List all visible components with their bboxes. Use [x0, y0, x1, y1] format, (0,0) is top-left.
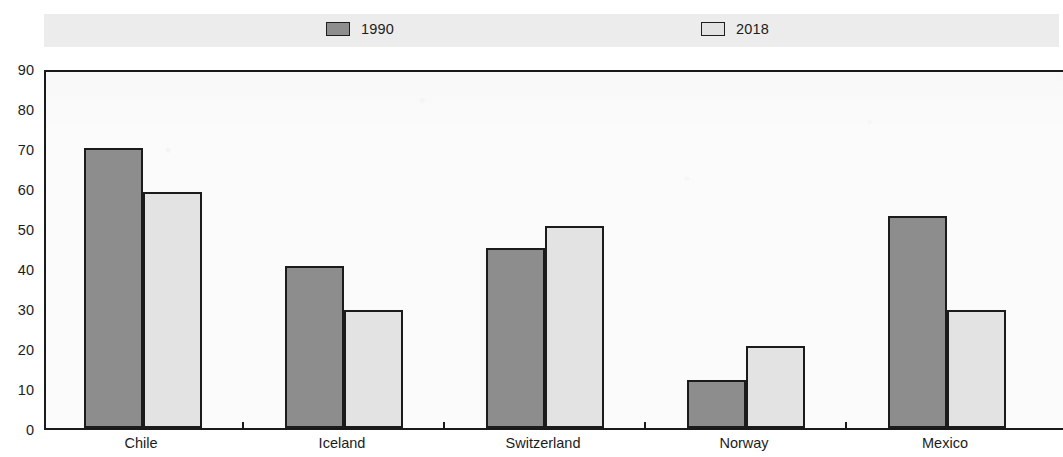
bar-chile-1990 [84, 148, 143, 428]
bar-iceland-1990 [285, 266, 344, 428]
bar-norway-2018 [746, 346, 805, 428]
x-tick-mark [242, 422, 244, 430]
x-tick-label-iceland: Iceland [319, 436, 366, 451]
legend-item-1990: 1990 [326, 19, 394, 39]
x-tick-label-mexico: Mexico [922, 436, 968, 451]
chart-legend: 1990 2018 [0, 0, 1059, 47]
y-tick-label: 60 [18, 183, 34, 198]
bars-layer [46, 72, 1063, 428]
bar-mexico-2018 [947, 310, 1006, 428]
y-tick-label: 20 [18, 343, 34, 358]
x-tick-label-norway: Norway [719, 436, 768, 451]
x-tick-mark [845, 422, 847, 430]
x-axis: ChileIcelandSwitzerlandNorwayMexico [44, 430, 1063, 457]
x-tick-label-switzerland: Switzerland [506, 436, 581, 451]
plot-area [44, 70, 1063, 430]
bar-switzerland-1990 [486, 248, 545, 428]
legend-label-2018: 2018 [736, 22, 769, 37]
bar-mexico-1990 [888, 216, 947, 428]
legend-item-2018: 2018 [701, 19, 769, 39]
x-tick-mark [644, 422, 646, 430]
light-gray-swatch-icon [701, 22, 725, 36]
y-tick-label: 10 [18, 383, 34, 398]
x-tick-mark [443, 422, 445, 430]
y-axis: 0102030405060708090 [0, 70, 44, 430]
bar-iceland-2018 [344, 310, 403, 428]
y-tick-label: 70 [18, 143, 34, 158]
x-tick-label-chile: Chile [124, 436, 157, 451]
y-tick-label: 50 [18, 223, 34, 238]
y-tick-label: 40 [18, 263, 34, 278]
y-tick-label: 80 [18, 103, 34, 118]
y-tick-label: 30 [18, 303, 34, 318]
bar-switzerland-2018 [545, 226, 604, 428]
legend-label-1990: 1990 [361, 22, 394, 37]
y-tick-label: 0 [26, 423, 34, 438]
bar-norway-1990 [687, 380, 746, 428]
dark-gray-swatch-icon [326, 22, 350, 36]
y-tick-label: 90 [18, 63, 34, 78]
bar-chile-2018 [143, 192, 202, 428]
